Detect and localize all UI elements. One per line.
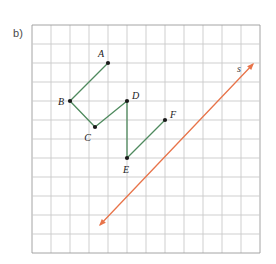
point-D (125, 99, 129, 103)
point-labels: ABCDEF (58, 48, 177, 175)
geometry-figure: b) s ABCDEF (0, 0, 276, 264)
point-label-B: B (58, 96, 64, 107)
point-label-E: E (122, 164, 129, 175)
point-label-C: C (84, 132, 91, 143)
point-A (106, 61, 110, 65)
line-s: s (99, 63, 254, 226)
figure-canvas: s ABCDEF (0, 0, 276, 264)
line-s-label: s (237, 63, 241, 74)
point-label-D: D (131, 90, 140, 101)
line-s-segment (100, 64, 252, 224)
point-F (163, 118, 167, 122)
point-label-A: A (97, 48, 105, 59)
point-E (125, 156, 129, 160)
point-C (93, 125, 97, 129)
green-path (70, 63, 165, 158)
plotted-points (68, 61, 167, 160)
point-label-F: F (169, 109, 177, 120)
path-segment-BC (70, 101, 95, 127)
point-B (68, 99, 72, 103)
path-segment-CD (95, 101, 127, 127)
